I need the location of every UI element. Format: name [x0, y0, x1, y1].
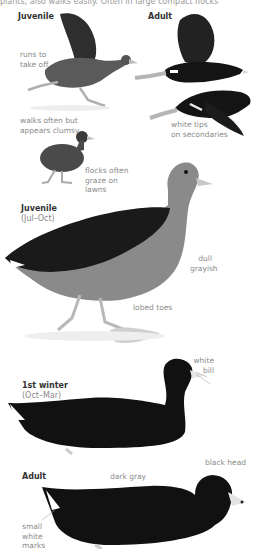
- black-head-label: black head: [205, 458, 246, 468]
- lobed-toes-label: lobed toes: [133, 303, 172, 313]
- small-white-marks-label: small white marks: [22, 522, 45, 549]
- first-winter-header: 1st winter (Oct–Mar): [22, 381, 68, 401]
- flocks-label: flocks often graze on lawns: [85, 166, 128, 195]
- dull-grayish-label: dull grayish: [190, 254, 212, 273]
- adult-flight-header: Adult: [148, 12, 172, 22]
- adult-swimming-header: Adult: [22, 472, 46, 482]
- dark-gray-label: dark gray: [110, 472, 146, 482]
- walks-label: walks often but appears clumsy: [20, 116, 79, 135]
- white-tips-label: white tips on secondaries: [171, 120, 228, 139]
- white-bill-label: white bill: [190, 356, 214, 375]
- runs-label: runs to take off: [20, 50, 48, 69]
- juvenile-standing-header: Juvenile (Jul–Oct): [21, 204, 57, 224]
- adult-flying-bird-top: [135, 14, 250, 82]
- juvenile-flight-header: Juvenile: [18, 12, 54, 22]
- adult-swimming-bird: [42, 475, 246, 549]
- first-winter-swimming-bird: [8, 359, 205, 454]
